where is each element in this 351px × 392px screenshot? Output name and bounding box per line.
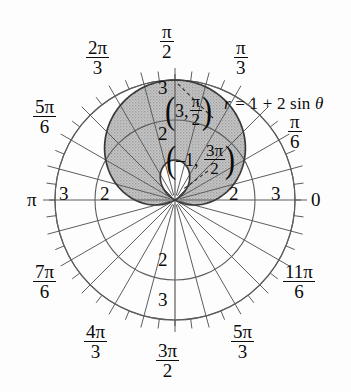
- tick-120.0deg: [109, 86, 115, 96]
- axis-label-zero: 0: [311, 190, 321, 209]
- tick-7.5deg: [294, 183, 304, 184]
- angular-gridline-300deg: [177, 204, 235, 304]
- close-paren-icon: ): [202, 96, 212, 124]
- tick-247.5deg: [125, 311, 129, 320]
- angle-label-pi-over-2: π2: [160, 22, 174, 62]
- point-annotation-max: (3,π2): [165, 93, 212, 129]
- tick-75.0deg: [206, 73, 209, 85]
- tick-172.5deg: [47, 183, 57, 184]
- radial-tick-label-right-2: 2: [229, 184, 239, 203]
- tick-105.0deg: [141, 73, 144, 85]
- tick-262.5deg: [158, 319, 159, 329]
- tick-127.5deg: [96, 97, 102, 105]
- radial-tick-label-down-2: 2: [158, 250, 168, 269]
- tick-202.5deg: [55, 246, 64, 250]
- tick-307.5deg: [248, 295, 254, 303]
- tick-352.5deg: [294, 216, 304, 217]
- angle-label-pi-over-3: π3: [234, 38, 248, 78]
- tick-300.0deg: [235, 304, 241, 314]
- tick-112.5deg: [125, 80, 129, 89]
- tick-195.0deg: [48, 231, 60, 234]
- tick-285.0deg: [206, 316, 209, 328]
- tick-210.0deg: [61, 260, 71, 266]
- angular-gridline-210deg: [71, 202, 171, 260]
- angle-label-five-pi-over-3: 5π3: [231, 322, 254, 362]
- angle-label-three-pi-over-2: 3π2: [156, 341, 179, 381]
- angle-label-eleven-pi-over-6: 11π6: [283, 262, 315, 302]
- angular-gridline-315deg: [178, 203, 259, 284]
- tick-165.0deg: [48, 166, 60, 169]
- radial-tick-label-left-2: 2: [100, 184, 110, 203]
- figure-canvas: π2 2π3 π3 5π6 π6 7π6 11π6 4π3 5π3 3π2 π …: [0, 0, 351, 392]
- tick-15.0deg: [291, 166, 303, 169]
- angle-label-two-pi-over-3: 2π3: [86, 38, 109, 78]
- angle-label-pi-over-6: π6: [288, 112, 302, 152]
- axis-label-pi: π: [27, 190, 37, 209]
- tick-292.5deg: [221, 311, 225, 320]
- tick-232.5deg: [96, 295, 102, 303]
- equation-label: r = 1 + 2 sin θ: [224, 95, 324, 112]
- angular-gridline-330deg: [179, 202, 279, 260]
- open-paren-icon: (: [166, 145, 176, 173]
- tick-187.5deg: [47, 216, 57, 217]
- tick-240.0deg: [109, 304, 115, 314]
- radial-tick-label-left-3: 3: [59, 184, 69, 203]
- point-annotation-inner-loop: (–1, 3π2): [166, 142, 235, 178]
- tick-315.0deg: [260, 285, 268, 293]
- tick-217.5deg: [72, 273, 80, 279]
- angular-gridline-285deg: [176, 205, 206, 316]
- angular-gridline-225deg: [90, 203, 171, 284]
- tick-142.5deg: [72, 121, 80, 127]
- radial-tick-label-down-3: 3: [158, 290, 168, 309]
- tick-255.0deg: [141, 316, 144, 328]
- tick-277.5deg: [191, 319, 192, 329]
- polar-plot-svg: [0, 0, 351, 392]
- radial-tick-label-right-3: 3: [271, 184, 281, 203]
- tick-135.0deg: [82, 107, 90, 115]
- close-paren-icon: ): [225, 145, 235, 173]
- tick-225.0deg: [82, 285, 90, 293]
- tick-337.5deg: [286, 246, 295, 250]
- tick-322.5deg: [270, 273, 278, 279]
- tick-67.5deg: [221, 80, 225, 89]
- angle-label-seven-pi-over-6: 7π6: [33, 262, 56, 302]
- tick-150.0deg: [61, 134, 71, 140]
- angle-label-four-pi-over-3: 4π3: [84, 322, 107, 362]
- angle-label-five-pi-over-6: 5π6: [33, 97, 56, 137]
- tick-345.0deg: [291, 231, 303, 234]
- open-paren-icon: (: [165, 96, 175, 124]
- tick-157.5deg: [55, 150, 64, 154]
- tick-82.5deg: [191, 72, 192, 82]
- tick-37.5deg: [270, 121, 278, 127]
